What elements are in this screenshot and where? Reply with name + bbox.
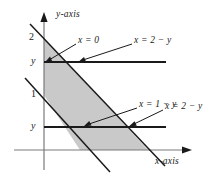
y-tick-label-2: 2 (29, 32, 34, 42)
leader-x-equals-2-minus-y-lower-arrowhead (129, 121, 137, 126)
annotation-x-equals-two-minus-y-upper: x = 2 − y (134, 36, 171, 46)
y-axis-arrowhead (40, 12, 47, 22)
leader-x-equals-2-minus-y-lower (134, 110, 163, 124)
y-tick-label-1: 1 (31, 89, 36, 99)
annotation-x-equals-zero: x = 0 (78, 36, 99, 46)
y-tick-label-y-lower: y (31, 121, 36, 131)
y-axis-label: y-axis (56, 10, 80, 20)
annotation-x-equals-two-minus-y-lower: x = 2 − y (165, 102, 202, 112)
leader-x-equals-2-minus-y-upper (83, 44, 132, 60)
figure-canvas: y-axis x-axis 2 y 1 y x = 0 x = 2 − y x … (0, 0, 217, 178)
y-tick-label-y-upper: y (31, 56, 36, 66)
x-axis-arrowhead (182, 146, 192, 153)
leader-x-equals-2-minus-y-upper-arrowhead (78, 57, 86, 62)
x-axis-label: x-axis (155, 157, 179, 167)
